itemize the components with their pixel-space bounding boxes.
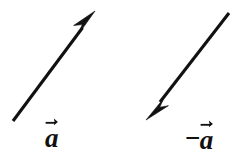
vector-negation-figure: a − a — [0, 0, 238, 156]
vector-a-label: a — [45, 125, 59, 152]
vector-a-label-glyph: a — [45, 125, 59, 152]
minus-sign-icon: − — [185, 125, 200, 152]
vector-negative-a-label: − a — [185, 125, 213, 154]
vector-negative-a-label-text: a — [200, 125, 214, 155]
vector-negative-a-label-glyph: a — [200, 127, 214, 154]
vector-a-label-text: a — [45, 123, 59, 153]
